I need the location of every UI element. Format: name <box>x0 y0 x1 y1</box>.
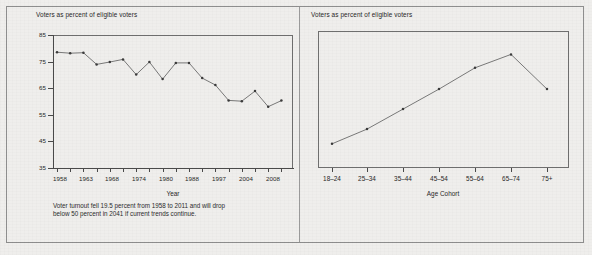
x-axis-title-left: Year <box>167 190 180 197</box>
series-points-left <box>56 51 283 108</box>
series-turnout-by-age <box>299 0 592 255</box>
x-axis-title-right: Age Cohort <box>427 190 459 197</box>
panel-turnout-by-year: Voters as percent of eligible voters 85 … <box>0 0 299 255</box>
series-line-left <box>57 52 281 106</box>
series-points-right <box>331 53 549 145</box>
series-line-right <box>332 54 547 143</box>
figure-page: Voters as percent of eligible voters 85 … <box>0 0 592 255</box>
panel-turnout-by-age: Voters as percent of eligible voters 18–… <box>299 0 592 255</box>
caption-left: Voter turnout fell 19.5 percent from 195… <box>53 202 293 219</box>
